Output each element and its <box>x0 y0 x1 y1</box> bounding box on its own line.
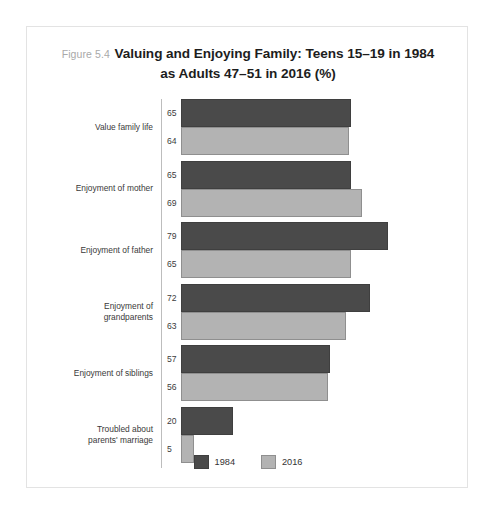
bar-group: Enjoyment ofgrandparents7263 <box>27 284 469 340</box>
bar-value-label: 20 <box>163 416 181 426</box>
bar-row-2016: 63 <box>163 312 346 340</box>
bar-row-1984: 72 <box>163 284 370 312</box>
category-label-line: Value family life <box>95 122 153 133</box>
category-label: Enjoyment of siblings <box>33 345 153 401</box>
bar-value-label: 5 <box>163 444 181 454</box>
category-label-line: Enjoyment of father <box>80 245 153 256</box>
bar-1984 <box>181 161 351 189</box>
bar-group: Enjoyment of father7965 <box>27 222 469 278</box>
bar-group: Enjoyment of siblings5756 <box>27 345 469 401</box>
bar-2016 <box>181 250 351 278</box>
bar-value-label: 63 <box>163 321 181 331</box>
bar-2016 <box>181 312 346 340</box>
category-label: Enjoyment of father <box>33 222 153 278</box>
bar-value-label: 65 <box>163 259 181 269</box>
category-label-line: Enjoyment of <box>104 301 153 312</box>
plot-area: Value family life6564Enjoyment of mother… <box>27 27 469 489</box>
bar-row-2016: 69 <box>163 189 362 217</box>
bar-row-1984: 65 <box>163 161 351 189</box>
bar-row-1984: 65 <box>163 99 351 127</box>
bar-value-label: 65 <box>163 108 181 118</box>
bar-row-2016: 65 <box>163 250 351 278</box>
bar-value-label: 64 <box>163 136 181 146</box>
category-label: Value family life <box>33 99 153 155</box>
bar-value-label: 56 <box>163 382 181 392</box>
bar-1984 <box>181 345 330 373</box>
bar-row-1984: 57 <box>163 345 330 373</box>
bar-row-1984: 79 <box>163 222 388 250</box>
legend-item-1984: 1984 <box>194 455 235 469</box>
bar-group: Enjoyment of mother6569 <box>27 161 469 217</box>
bar-value-label: 57 <box>163 354 181 364</box>
category-label-line: grandparents <box>104 312 153 323</box>
bar-value-label: 69 <box>163 198 181 208</box>
category-label-line: parents' marriage <box>88 435 153 446</box>
legend-label: 2016 <box>282 457 302 467</box>
bar-row-2016: 56 <box>163 373 328 401</box>
bar-1984 <box>181 407 233 435</box>
category-label-line: Enjoyment of mother <box>76 183 153 194</box>
category-label-line: Troubled about <box>97 424 153 435</box>
bar-2016 <box>181 189 362 217</box>
bar-1984 <box>181 222 388 250</box>
legend-swatch-icon <box>194 455 209 469</box>
bar-group: Value family life6564 <box>27 99 469 155</box>
category-label: Enjoyment of mother <box>33 161 153 217</box>
bar-2016 <box>181 127 349 155</box>
bar-row-1984: 20 <box>163 407 233 435</box>
bar-2016 <box>181 373 328 401</box>
bar-value-label: 72 <box>163 293 181 303</box>
bar-value-label: 65 <box>163 170 181 180</box>
category-label: Enjoyment ofgrandparents <box>33 284 153 340</box>
category-label-line: Enjoyment of siblings <box>74 368 153 379</box>
bar-value-label: 79 <box>163 231 181 241</box>
bar-1984 <box>181 284 370 312</box>
chart-legend: 19842016 <box>27 455 469 469</box>
figure-frame: Figure 5.4 Valuing and Enjoying Family: … <box>26 26 468 488</box>
legend-swatch-icon <box>261 455 276 469</box>
bar-row-2016: 64 <box>163 127 349 155</box>
legend-item-2016: 2016 <box>261 455 302 469</box>
bar-1984 <box>181 99 351 127</box>
legend-label: 1984 <box>215 457 235 467</box>
